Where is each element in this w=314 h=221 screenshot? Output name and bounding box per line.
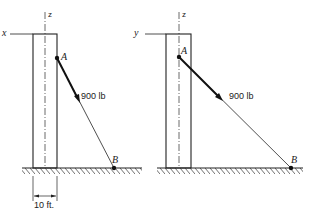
right-force-arrow	[179, 57, 218, 96]
left-a-label: A	[61, 52, 67, 62]
left-b-label: B	[112, 155, 118, 165]
right-ground-hatch	[157, 168, 303, 174]
left-x-axis-label: x	[2, 28, 6, 38]
right-b-label: B	[291, 155, 297, 165]
dim-arrow-left-icon	[34, 195, 39, 198]
right-z-axis-label: z	[182, 11, 186, 19]
diagram-graphics	[0, 0, 314, 221]
left-point-b	[112, 166, 116, 170]
right-point-b	[289, 166, 293, 170]
left-ground-hatch	[22, 168, 142, 174]
right-force-label: 900 lb	[229, 92, 254, 101]
left-z-axis-label: z	[48, 11, 52, 19]
dimension-label: 10 ft.	[34, 201, 54, 210]
left-arrowhead-icon	[74, 94, 80, 103]
left-force-label: 900 lb	[81, 92, 106, 101]
left-force-arrow	[57, 58, 77, 97]
right-y-axis-label: y	[134, 28, 138, 38]
diagram: x z A 900 lb B 10 ft. y z A 900 lb B	[0, 0, 314, 221]
right-a-label: A	[181, 46, 187, 56]
right-figure	[145, 12, 303, 174]
left-point-a	[55, 56, 59, 60]
left-figure	[10, 12, 142, 201]
dim-arrow-right-icon	[51, 195, 56, 198]
right-column	[166, 34, 191, 168]
